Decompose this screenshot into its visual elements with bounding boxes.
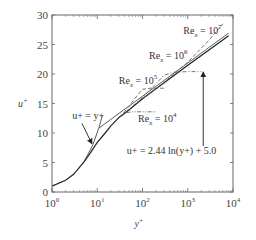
annotation-layer: Rex = 107Rex = 106Rex = 105Rex = 104u+ =…	[72, 23, 222, 157]
annotation-label-3: Rex = 104	[138, 111, 177, 127]
y-tick-label: 10	[37, 127, 49, 139]
annotation-label-2: Rex = 105	[119, 73, 158, 89]
annotation-label-0: Rex = 107	[183, 23, 222, 39]
annotation-label-5: u+ = 2.44 ln(y+) + 5.0	[127, 145, 216, 157]
y-tick-label: 5	[43, 157, 49, 169]
annotation-label-1: Rex = 106	[149, 48, 188, 64]
x-tick-label: 103	[181, 196, 196, 209]
y-tick-label: 15	[37, 98, 49, 110]
x-tick-label: 100	[45, 196, 60, 209]
x-tick-label: 101	[90, 196, 105, 209]
y-tick-label: 20	[37, 68, 49, 80]
x-axis-title: y+	[133, 217, 143, 229]
annotation-label-4: u+ = y+	[72, 110, 104, 121]
x-tick-label: 102	[135, 196, 150, 209]
wall-law-chart: Rex = 107Rex = 106Rex = 105Rex = 104u+ =…	[0, 0, 256, 240]
series-layer	[52, 24, 229, 186]
x-tick-label: 104	[226, 196, 241, 209]
plot-frame	[52, 15, 233, 192]
arrow-to-viscous-sublayer-icon	[82, 124, 92, 144]
y-axis-title: u+	[18, 97, 28, 109]
y-tick-label: 25	[37, 39, 49, 51]
series-line-5	[119, 72, 202, 118]
y-tick-label: 30	[37, 9, 49, 21]
